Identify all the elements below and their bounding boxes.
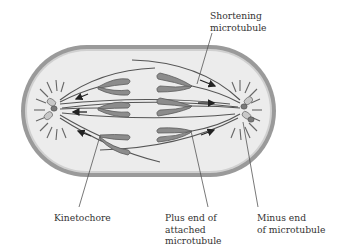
label-plus-end: Plus end of attached microtubule — [165, 212, 222, 247]
cell-membrane — [21, 45, 276, 177]
label-line: Shortening — [210, 10, 267, 22]
label-minus-end: Minus end of microtubule — [257, 212, 325, 235]
label-line: Kinetochore — [54, 212, 111, 224]
label-line: Minus end — [257, 212, 325, 224]
label-line: attached — [165, 224, 222, 236]
label-line: microtubule — [210, 22, 267, 34]
label-line: of microtubule — [257, 224, 325, 236]
label-line: Plus end of — [165, 212, 222, 224]
label-shortening-microtubule: Shortening microtubule — [210, 10, 267, 33]
label-kinetochore: Kinetochore — [54, 212, 111, 224]
label-line: microtubule — [165, 235, 222, 247]
mitotic-spindle-diagram: Shortening microtubule Kinetochore Plus … — [0, 0, 339, 250]
